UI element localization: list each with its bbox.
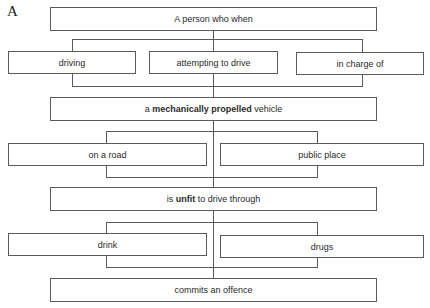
node-driving-text: driving — [59, 58, 86, 68]
node-attempting: attempting to drive — [149, 51, 278, 74]
node-drugs-text: drugs — [311, 242, 334, 252]
connector-line — [213, 87, 214, 97]
node-in-charge: in charge of — [296, 52, 424, 75]
node-drink: drink — [8, 233, 207, 256]
node-public-place-text: public place — [298, 150, 346, 160]
node-vehicle-text: a mechanically propelled vehicle — [145, 104, 283, 114]
node-offence: commits an offence — [50, 278, 377, 302]
connector-line — [213, 131, 214, 178]
connector-line — [213, 268, 214, 278]
emphasis-text: mechanically propelled — [152, 104, 252, 114]
node-road: on a road — [8, 143, 207, 166]
node-road-text: on a road — [88, 150, 126, 160]
node-person-text: A person who when — [174, 14, 253, 24]
node-vehicle: a mechanically propelled vehicle — [50, 97, 377, 121]
node-driving: driving — [8, 51, 136, 74]
emphasis-text: unfit — [176, 194, 196, 204]
node-person: A person who when — [50, 7, 377, 31]
connector-line — [213, 222, 214, 268]
node-drugs: drugs — [220, 235, 424, 258]
node-offence-text: commits an offence — [175, 285, 253, 295]
node-public-place: public place — [220, 143, 424, 166]
node-drink-text: drink — [98, 240, 118, 250]
node-unfit-text: is unfit to drive through — [167, 194, 261, 204]
node-in-charge-text: in charge of — [336, 59, 383, 69]
node-unfit: is unfit to drive through — [50, 187, 377, 211]
connector-line — [213, 211, 214, 222]
flowchart-diagram: A A person who when driving attempting t… — [0, 0, 430, 308]
panel-label: A — [7, 3, 18, 20]
node-attempting-text: attempting to drive — [176, 58, 250, 68]
